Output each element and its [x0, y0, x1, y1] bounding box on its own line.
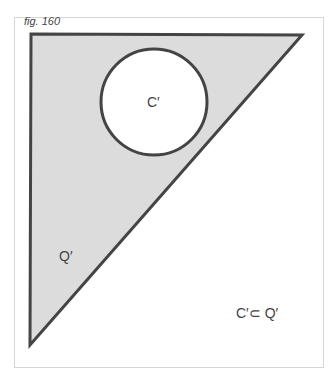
triangle-label: Q′: [59, 248, 73, 264]
diagram-canvas: [0, 0, 334, 380]
circle-label: C′: [147, 94, 160, 110]
relation-label: C′⊂ Q′: [236, 305, 278, 321]
